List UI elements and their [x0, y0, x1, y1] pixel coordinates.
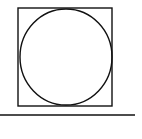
- diagram-canvas: [0, 0, 142, 139]
- inscribed-circle-shape: [20, 9, 112, 105]
